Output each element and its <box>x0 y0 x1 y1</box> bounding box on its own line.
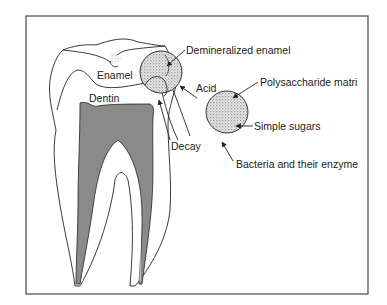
label-polysaccharide-matrix: Polysaccharide matri <box>260 76 357 88</box>
tooth-decay-diagram: Enamel Dentin Demineralized enamel Acid … <box>0 0 387 305</box>
label-bacteria-enzymes: Bacteria and their enzyme <box>236 158 358 170</box>
fissure-plaque <box>110 52 122 64</box>
arrow-acid <box>180 86 197 98</box>
plaque-circle <box>206 91 248 133</box>
label-simple-sugars: Simple sugars <box>254 120 321 132</box>
arrow-bacteria <box>222 142 233 161</box>
arrow-polysaccharide <box>233 82 258 98</box>
label-enamel: Enamel <box>97 69 133 81</box>
label-demineralized-enamel: Demineralized enamel <box>186 44 290 56</box>
label-dentin: Dentin <box>89 92 120 104</box>
label-decay: Decay <box>171 140 202 152</box>
demineralized-enamel-zone <box>140 51 182 93</box>
label-acid: Acid <box>196 82 217 94</box>
pulp-chamber <box>76 102 154 284</box>
